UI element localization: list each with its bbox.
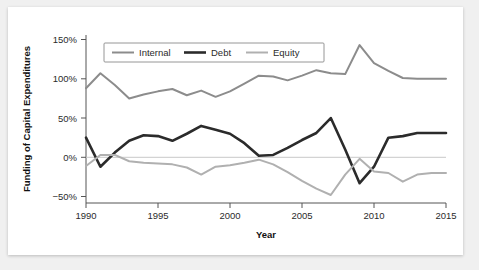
legend-label-debt: Debt: [211, 47, 231, 58]
line-chart: 150% 100% 50% 0% −50% 1990 1995 2000 2: [8, 7, 463, 255]
y-tick-label-50: 50%: [58, 113, 78, 124]
y-axis-title: Funding of Capital Expenditures: [21, 46, 32, 192]
x-tick-label-1995: 1995: [147, 210, 168, 221]
series-line-debt: [86, 118, 446, 183]
y-tick-label-100: 100%: [53, 73, 78, 84]
series-layer: [86, 45, 446, 195]
y-ticks: [81, 40, 86, 197]
legend-label-internal: Internal: [139, 47, 171, 58]
y-tick-label-neg50: −50%: [52, 191, 77, 202]
x-tick-label-2005: 2005: [291, 210, 312, 221]
legend: Internal Debt Equity: [104, 43, 324, 62]
x-axis-title: Year: [256, 229, 276, 240]
y-tick-label-0: 0%: [63, 152, 77, 163]
figure-card: 150% 100% 50% 0% −50% 1990 1995 2000 2: [8, 7, 463, 255]
x-tick-label-2015: 2015: [435, 210, 456, 221]
y-tick-label-150: 150%: [53, 34, 78, 45]
legend-label-equity: Equity: [273, 47, 300, 58]
x-tick-labels: 1990 1995 2000 2005 2010 2015: [75, 210, 456, 221]
x-tick-label-1990: 1990: [75, 210, 96, 221]
x-tick-label-2010: 2010: [363, 210, 384, 221]
x-ticks: [86, 203, 446, 208]
x-tick-label-2000: 2000: [219, 210, 240, 221]
y-tick-labels: 150% 100% 50% 0% −50%: [52, 34, 77, 202]
series-line-equity: [86, 155, 446, 195]
page-background: 150% 100% 50% 0% −50% 1990 1995 2000 2: [0, 0, 479, 270]
